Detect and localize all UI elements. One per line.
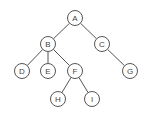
node-label: H [55,95,61,104]
node-label: F [73,67,78,76]
tree-node-f: F [68,64,83,79]
edge-b-d [27,49,43,65]
tree-nodes: ABCDEFGHI [15,11,138,107]
node-label: E [45,67,50,76]
node-label: I [91,95,93,104]
node-label: G [127,67,133,76]
tree-node-b: B [41,37,56,52]
node-label: B [45,40,50,49]
node-label: A [72,14,78,23]
edge-f-i [79,77,88,92]
tree-node-i: I [85,92,100,107]
tree-node-e: E [41,64,56,79]
edge-f-h [62,77,71,92]
edge-a-c [80,23,96,39]
node-label: C [99,40,105,49]
tree-edges [27,23,124,92]
node-label: D [19,67,25,76]
edge-a-b [53,23,69,39]
edge-b-f [53,49,69,65]
tree-node-a: A [68,11,83,26]
tree-diagram: ABCDEFGHI [0,0,148,118]
tree-node-g: G [123,64,138,79]
tree-node-h: H [51,92,66,107]
tree-node-d: D [15,64,30,79]
tree-node-c: C [95,37,110,52]
edge-c-g [107,49,124,66]
